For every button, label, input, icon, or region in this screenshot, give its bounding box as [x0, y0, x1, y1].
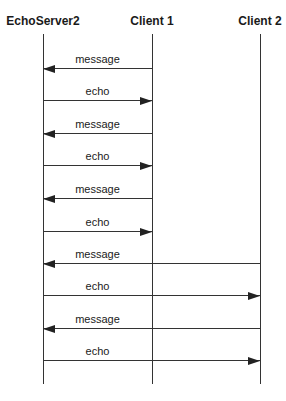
arrowhead-icon [140, 97, 152, 105]
message-arrow [43, 295, 260, 296]
message-label: message [75, 313, 120, 325]
message-arrow [43, 198, 152, 199]
message-label: message [75, 248, 120, 260]
message-arrow [43, 231, 152, 232]
arrowhead-icon [140, 162, 152, 170]
message-arrow [43, 133, 152, 134]
arrowhead-icon [43, 325, 55, 333]
arrowhead-icon [248, 292, 260, 300]
arrowhead-icon [43, 130, 55, 138]
lifeline [260, 34, 261, 384]
message-arrow [43, 100, 152, 101]
message-arrow [43, 68, 152, 69]
actor-label: Client 2 [238, 14, 281, 28]
message-label: message [75, 53, 120, 65]
lifeline [152, 34, 153, 384]
message-label: message [75, 183, 120, 195]
arrowhead-icon [43, 65, 55, 73]
message-label: echo [86, 345, 110, 357]
message-label: echo [86, 216, 110, 228]
arrowhead-icon [248, 357, 260, 365]
message-arrow [43, 263, 260, 264]
message-label: echo [86, 150, 110, 162]
message-arrow [43, 165, 152, 166]
actor-label: Client 1 [130, 14, 173, 28]
actor-label: EchoServer2 [6, 14, 79, 28]
arrowhead-icon [43, 260, 55, 268]
message-label: echo [86, 85, 110, 97]
message-arrow [43, 328, 260, 329]
arrowhead-icon [43, 195, 55, 203]
message-label: message [75, 118, 120, 130]
arrowhead-icon [140, 228, 152, 236]
message-arrow [43, 360, 260, 361]
message-label: echo [86, 280, 110, 292]
